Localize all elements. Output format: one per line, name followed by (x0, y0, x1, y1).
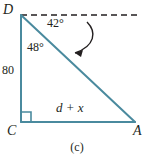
vertex-label-A: A (133, 124, 142, 138)
figure-caption: (c) (0, 140, 154, 155)
curved-arrow-path (75, 22, 93, 53)
vertex-label-C: C (7, 124, 16, 138)
angle-label-48: 48° (27, 41, 44, 53)
side-label-d-plus-x: d + x (56, 101, 84, 114)
angle-label-42: 42° (47, 17, 64, 29)
figure-svg (0, 0, 154, 160)
right-angle-marker (21, 112, 31, 122)
triangle-figure: D C A 42° 48° 80 d + x (c) (0, 0, 154, 160)
side-label-80: 80 (2, 64, 14, 76)
vertex-label-D: D (3, 3, 13, 17)
